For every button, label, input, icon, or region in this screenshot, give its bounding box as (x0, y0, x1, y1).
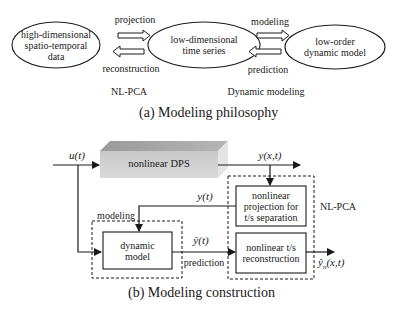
dynamic-model-label: dynamic model (103, 240, 172, 262)
yt-label: y(t) (190, 191, 220, 202)
yhat-n-label: ŷn(x,t) (318, 257, 368, 273)
reconstruction-label: reconstruction (100, 63, 162, 74)
dynamic-modeling-group-label: Dynamic modeling (226, 86, 306, 97)
node-high-dim-label: high-dimensional spatio-temporal data (20, 29, 92, 62)
reconstruction-box-label: nonlinear t/s reconstruction (236, 242, 306, 264)
nlpca-group-label: NL-PCA (106, 86, 152, 97)
modeling-b-label: modeling (95, 210, 137, 221)
dps-label: nonlinear DPS (112, 158, 206, 169)
projection-box-label: nonlinear projection for t/s separation (236, 190, 306, 223)
nlpca-b-label: NL-PCA (318, 201, 358, 212)
projection-arrow-icon (118, 30, 150, 41)
prediction-label: prediction (245, 64, 291, 75)
yhat-t-label: ŷ(t) (186, 235, 216, 246)
caption-b: (b) Modeling construction (128, 285, 275, 301)
input-to-model-line (78, 165, 101, 252)
caption-a: (a) Modeling philosophy (139, 105, 278, 121)
node-low-dim-label: low-dimensional time series (154, 34, 254, 56)
output-label: y(x,t) (248, 150, 292, 161)
projection-label: projection (110, 14, 160, 25)
yt-feedback-line (139, 206, 236, 231)
prediction-b-label: prediction (182, 257, 226, 268)
reconstruction-arrow-icon (113, 46, 144, 57)
modeling-arrow-icon (257, 30, 289, 41)
modeling-label: modeling (248, 16, 292, 27)
node-low-order-label: low-order dynamic model (290, 36, 380, 58)
input-label: u(t) (62, 150, 92, 161)
